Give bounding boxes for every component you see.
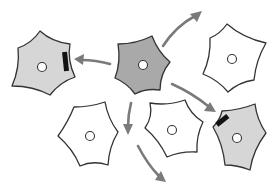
arrow-head-icon	[123, 124, 133, 135]
nucleus	[228, 55, 237, 64]
nucleus	[233, 134, 242, 143]
contacted-cell-bottom-right	[213, 104, 266, 170]
signaling-cell-center	[115, 36, 170, 94]
arrow-shaft	[163, 16, 195, 46]
arrow-to-left-cell	[74, 54, 110, 65]
arrow-shaft	[138, 146, 159, 176]
arrow-off-bottom	[138, 146, 166, 182]
arrow-shaft	[82, 60, 110, 64]
diagram-canvas	[0, 0, 274, 190]
nucleus	[86, 132, 95, 141]
contacted-cell-left	[12, 31, 75, 95]
cell-signaling-diagram	[0, 0, 274, 190]
arrow-shaft	[128, 103, 131, 127]
arrow-head-icon	[74, 54, 84, 65]
arrow-downward	[123, 103, 133, 135]
arrow-to-top-right	[163, 11, 202, 46]
nucleus	[168, 126, 177, 135]
unaffected-cell-top-right	[203, 24, 266, 92]
unaffected-cell-bottom-middle	[145, 100, 203, 157]
nucleus	[139, 61, 148, 70]
nucleus	[38, 63, 47, 72]
unaffected-cell-bottom-left	[58, 102, 118, 166]
